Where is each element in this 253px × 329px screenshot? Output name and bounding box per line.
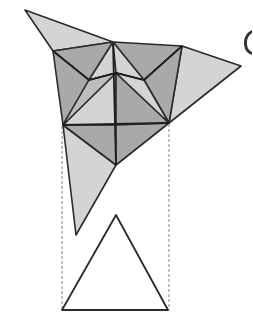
folded-net-diagram — [0, 0, 253, 329]
lower-right-face — [116, 123, 169, 165]
partial-label-glyph — [244, 30, 252, 55]
